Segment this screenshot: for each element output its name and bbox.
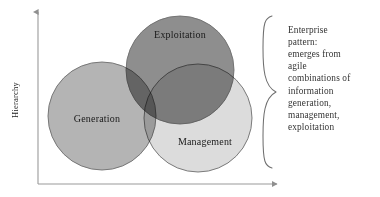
curly-brace bbox=[263, 16, 276, 168]
y-axis-label: Hierarchy bbox=[10, 82, 20, 118]
annotation-line: agile bbox=[288, 61, 307, 71]
venn-label-management: Management bbox=[178, 136, 232, 147]
diagram-canvas: Hierarchy ExploitationGenerationManageme… bbox=[0, 0, 380, 197]
annotation-line: emerges from bbox=[288, 49, 342, 59]
venn-circles-group bbox=[48, 16, 252, 172]
annotation-line: exploitation bbox=[288, 122, 334, 132]
annotation-line: generation, bbox=[288, 98, 331, 108]
annotation-line: pattern: bbox=[288, 37, 318, 47]
annotation-line: management, bbox=[288, 110, 339, 120]
annotation-line: Enterprise bbox=[288, 25, 328, 35]
annotation-line: information bbox=[288, 86, 334, 96]
annotation-line: combinations of bbox=[288, 73, 351, 83]
venn-label-generation: Generation bbox=[74, 113, 120, 124]
venn-label-exploitation: Exploitation bbox=[154, 29, 206, 40]
venn-diagram-figure: Hierarchy ExploitationGenerationManageme… bbox=[0, 0, 380, 197]
venn-circle-management bbox=[144, 64, 252, 172]
annotation-text-block: Enterprisepattern:emerges fromagilecombi… bbox=[288, 25, 351, 132]
